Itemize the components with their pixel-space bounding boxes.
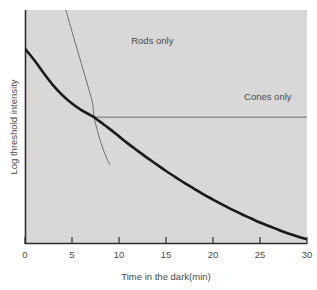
- chart-canvas: 051015202530 Rods onlyCones only Time in…: [0, 0, 317, 290]
- annotation-rods-only: Rods only: [131, 35, 173, 46]
- x-tick-label-0: 0: [22, 249, 27, 260]
- x-tick-label-30: 30: [302, 249, 313, 260]
- x-tick-label-25: 25: [255, 249, 266, 260]
- x-tick-label-10: 10: [114, 249, 125, 260]
- x-tick-label-5: 5: [69, 249, 74, 260]
- x-tick-label-15: 15: [161, 249, 172, 260]
- x-tick-label-20: 20: [208, 249, 219, 260]
- y-axis-title: Log threshold intensity: [8, 79, 19, 174]
- x-axis-title: Time in the dark(min): [121, 271, 210, 282]
- dark-adaptation-chart: 051015202530 Rods onlyCones only Time in…: [0, 0, 317, 290]
- annotation-cones-only: Cones only: [244, 91, 292, 102]
- x-axis-tick-labels: 051015202530: [22, 249, 312, 260]
